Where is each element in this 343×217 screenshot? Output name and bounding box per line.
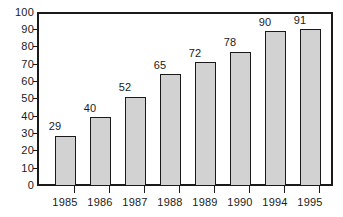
bar-value-label-1995: 91: [283, 15, 317, 26]
y-axis-tick-label: 100: [0, 7, 34, 18]
y-axis-tick-label: 30: [0, 128, 34, 139]
bar-value-label-1985: 29: [38, 121, 72, 132]
bar-value-label-1986: 40: [73, 103, 107, 114]
bar-1987[interactable]: [125, 97, 146, 186]
bar-value-label-1990: 78: [213, 37, 247, 48]
x-axis-tick-mark: [284, 186, 285, 193]
x-axis-tick-mark: [144, 186, 145, 193]
bar-1988[interactable]: [160, 74, 181, 186]
x-axis-tick-label-1995: 1995: [288, 196, 332, 208]
bar-1989[interactable]: [195, 62, 216, 186]
bar-value-label-1989: 72: [178, 48, 212, 59]
plot-area: [39, 14, 331, 186]
y-axis-tick-label: 70: [0, 59, 34, 70]
bar-chart: 100 90 80 70 60 50 40 30 20 10 0 2: [0, 0, 343, 217]
x-axis-tick-mark: [109, 186, 110, 193]
x-axis-tick-mark: [179, 186, 180, 193]
y-axis-tick-label: 90: [0, 24, 34, 35]
bar-1986[interactable]: [90, 117, 111, 186]
bar-value-label-1987: 52: [108, 82, 142, 93]
y-axis-tick-label: 40: [0, 111, 34, 122]
y-axis-tick-label: 0: [0, 180, 34, 191]
x-axis-tick-mark: [214, 186, 215, 193]
bar-1985[interactable]: [55, 136, 76, 186]
bar-1995[interactable]: [300, 29, 321, 186]
bar-value-label-1988: 65: [143, 60, 177, 71]
y-axis-tick-label: 50: [0, 93, 34, 104]
x-axis-tick-mark: [319, 186, 320, 193]
y-axis-tick-label: 60: [0, 76, 34, 87]
y-axis-tick-label: 80: [0, 41, 34, 52]
bar-1994[interactable]: [265, 31, 286, 186]
y-axis-tick-label: 20: [0, 145, 34, 156]
bar-1990[interactable]: [230, 52, 251, 186]
bar-value-label-1994: 90: [248, 17, 282, 28]
x-axis-tick-mark: [74, 186, 75, 193]
x-axis-tick-mark: [249, 186, 250, 193]
y-axis-tick-label: 10: [0, 163, 34, 174]
